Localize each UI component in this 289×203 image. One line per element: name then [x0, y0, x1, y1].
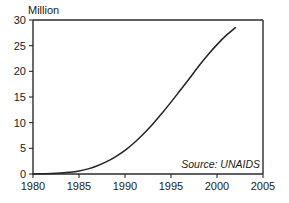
line-chart: Million 051015202530 1980198519901995200… — [0, 0, 289, 203]
x-tick-label: 1990 — [113, 180, 137, 192]
y-tick-label: 20 — [14, 65, 26, 77]
x-tick-label: 2000 — [205, 180, 229, 192]
y-tick-label: 0 — [20, 168, 26, 180]
y-tick-label: 25 — [14, 40, 26, 52]
x-tick-label: 2005 — [251, 180, 275, 192]
y-tick-label: 5 — [20, 142, 26, 154]
chart-background — [0, 0, 289, 203]
x-tick-label: 1995 — [159, 180, 183, 192]
y-tick-label: 10 — [14, 117, 26, 129]
chart-container: Million 051015202530 1980198519901995200… — [0, 0, 289, 203]
y-axis-caption: Million — [28, 4, 59, 16]
y-tick-label: 30 — [14, 14, 26, 26]
source-annotation: Source: UNAIDS — [181, 158, 260, 170]
x-tick-label: 1985 — [67, 180, 91, 192]
y-tick-label: 15 — [14, 91, 26, 103]
x-tick-label: 1980 — [21, 180, 45, 192]
